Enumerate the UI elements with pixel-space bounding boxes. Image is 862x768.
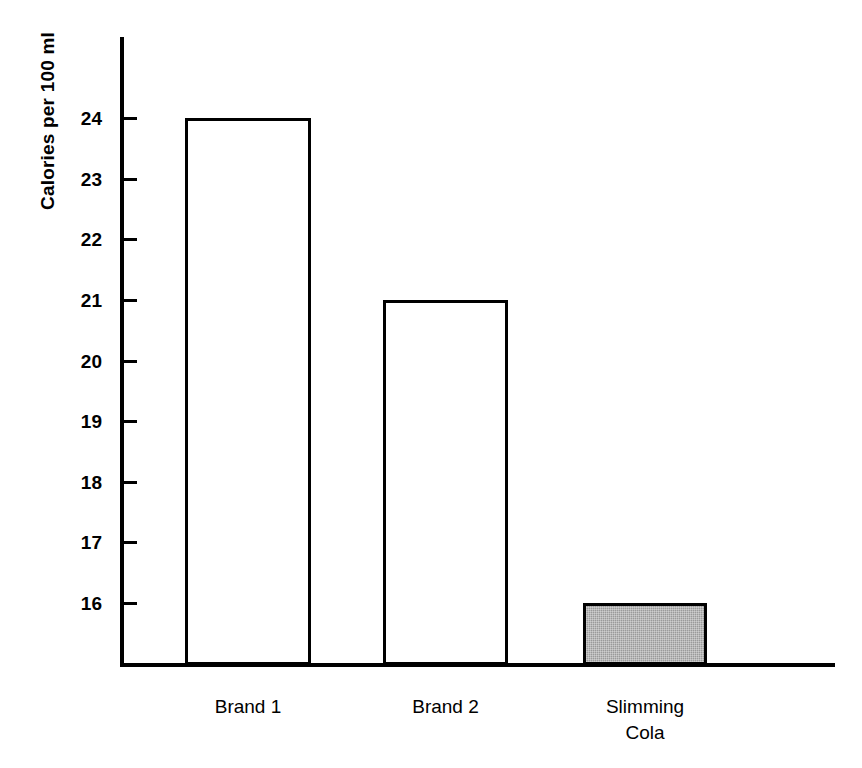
- y-axis-tick-mark: [122, 299, 137, 302]
- bar-3: [583, 603, 707, 665]
- y-axis-tick-label: 18: [56, 473, 102, 492]
- y-axis-tick-label: 16: [56, 594, 102, 613]
- y-axis-tick-mark: [122, 360, 137, 363]
- y-axis-tick-label: 23: [56, 170, 102, 189]
- y-axis-line: [120, 37, 124, 667]
- y-axis-tick-mark: [122, 178, 137, 181]
- x-axis-label-3: Slimming Cola: [535, 694, 755, 745]
- y-axis-tick-label: 17: [56, 533, 102, 552]
- y-axis-tick-mark: [122, 481, 137, 484]
- y-axis-tick-mark: [122, 602, 137, 605]
- y-axis-tick-mark: [122, 238, 137, 241]
- y-axis-tick-label: 21: [56, 291, 102, 310]
- y-axis-tick-mark: [122, 541, 137, 544]
- y-axis-tick-label: 24: [56, 109, 102, 128]
- y-axis-tick-mark: [122, 420, 137, 423]
- x-axis-label-2: Brand 2: [336, 694, 556, 720]
- bar-chart: Calories per 100 ml 161718192021222324 B…: [0, 0, 862, 768]
- bar-2: [383, 300, 508, 665]
- y-axis-tick-label: 20: [56, 352, 102, 371]
- y-axis-tick-mark: [122, 117, 137, 120]
- x-axis-label-1: Brand 1: [138, 694, 358, 720]
- bar-1: [185, 118, 311, 665]
- y-axis-tick-label: 19: [56, 412, 102, 431]
- y-axis-tick-label: 22: [56, 230, 102, 249]
